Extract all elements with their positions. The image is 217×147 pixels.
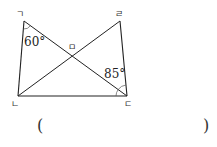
- side-top-left-to-bottom-left: [18, 21, 24, 96]
- vertex-label-bottom-right: ㄷ: [124, 99, 132, 109]
- vertex-label-bottom-left: ㄴ: [11, 99, 19, 109]
- intersection-label: ㅁ: [68, 42, 76, 52]
- vertex-label-top-right: ㄹ: [115, 9, 123, 19]
- side-top-right-to-bottom-right: [120, 21, 127, 96]
- diagonal-top-left-to-bottom-right: [24, 21, 127, 96]
- angle-label-60: 60°: [24, 35, 45, 49]
- angle-label-85: 85°: [104, 67, 125, 81]
- answer-open-paren: (: [37, 116, 43, 135]
- answer-blank[interactable]: [50, 118, 200, 136]
- angle-arc-top-left: [23, 26, 30, 29]
- vertex-label-top-left: ㄱ: [16, 9, 24, 19]
- diagonal-bottom-left-to-top-right: [18, 21, 120, 96]
- answer-close-paren: ): [203, 116, 209, 135]
